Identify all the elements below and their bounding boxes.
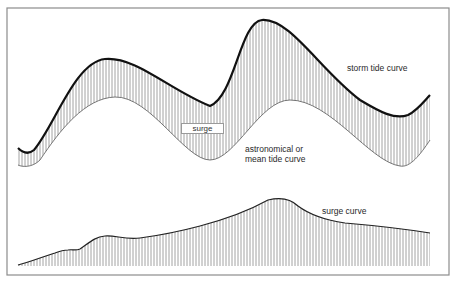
- surge-curve-label: surge curve: [322, 206, 366, 216]
- surge-label-box: surge: [181, 123, 224, 134]
- storm-surge-diagram: [0, 0, 458, 283]
- mean-tide-label-line1: astronomical or: [245, 144, 303, 154]
- surge-area-hatch: [15, 190, 435, 270]
- mean-tide-label-line2: mean tide curve: [245, 154, 305, 164]
- storm-tide-label: storm tide curve: [347, 63, 407, 73]
